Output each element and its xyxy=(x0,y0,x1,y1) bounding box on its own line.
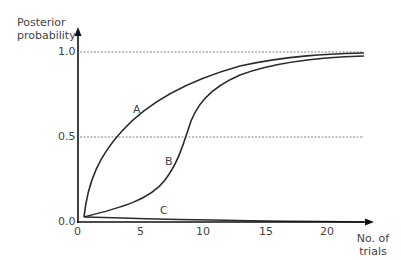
curve-label-b: B xyxy=(165,155,173,168)
x-tick-0: 0 xyxy=(74,226,81,238)
curve-label-c: C xyxy=(160,204,168,217)
y-axis-title-line1: Posterior xyxy=(17,16,66,29)
x-axis-title-line1: No. of xyxy=(353,232,393,245)
y-tick-05: 0.5 xyxy=(58,131,76,143)
x-tick-5: 5 xyxy=(137,226,144,238)
y-axis-title-line2: probability xyxy=(17,29,76,42)
x-tick-20: 20 xyxy=(320,226,334,238)
x-tick-15: 15 xyxy=(259,226,273,238)
y-tick-0: 0.0 xyxy=(58,216,76,228)
y-tick-1: 1.0 xyxy=(58,46,76,58)
curve-label-a: A xyxy=(133,103,141,116)
curve-a xyxy=(84,53,364,217)
x-axis-title-line2: trials xyxy=(353,245,393,258)
curve-b xyxy=(84,56,364,217)
x-axis-arrow-icon xyxy=(365,219,374,226)
x-tick-10: 10 xyxy=(196,226,210,238)
